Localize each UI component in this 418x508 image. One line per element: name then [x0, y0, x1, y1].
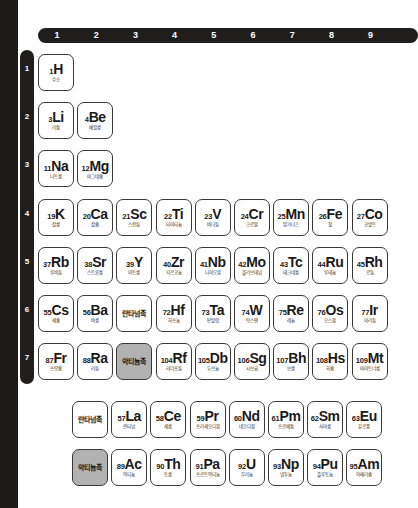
atomic-number: 60: [234, 415, 242, 423]
element-name-korean: 보륨: [287, 367, 295, 372]
element-symbol: Ac: [125, 457, 142, 471]
element-cell-Sc[interactable]: 21Sc스칸듐: [116, 199, 152, 236]
element-cell-Os[interactable]: 76Os오스뮴: [312, 295, 348, 332]
element-cell-Ca[interactable]: 20Ca칼슘: [77, 199, 113, 236]
group-label-cell-란타넘족[interactable]: 란타넘족: [72, 401, 108, 438]
element-cell-Eu[interactable]: 63Eu유로퓸: [346, 401, 382, 438]
element-cell-Np[interactable]: 93Np넵투늄: [268, 449, 304, 486]
element-name-korean: 스칸듐: [129, 223, 141, 228]
element-cell-Y[interactable]: 39Y이트륨: [116, 247, 152, 284]
element-cell-Sr[interactable]: 38Sr스트론튬: [77, 247, 113, 284]
element-cell-Hf[interactable]: 72Hf하프늄: [156, 295, 192, 332]
element-symbol-row: 57La: [117, 409, 141, 423]
element-name-korean: 플루토늄: [317, 473, 333, 478]
element-cell-La[interactable]: 57La란타넘: [111, 401, 147, 438]
element-symbol: Pr: [205, 409, 219, 423]
element-cell-Pr[interactable]: 59Pr프라세오디뮴: [190, 401, 226, 438]
group-label-cell-악티늄족[interactable]: 악티늄족: [116, 343, 152, 380]
element-cell-K[interactable]: 19K칼륨: [38, 199, 74, 236]
element-cell-Mg[interactable]: 12Mg마그네슘: [77, 150, 113, 187]
element-cell-Na[interactable]: 11Na나트륨: [38, 150, 74, 187]
element-cell-Li[interactable]: 3Li리튬: [38, 102, 74, 139]
atomic-number: 75: [279, 309, 287, 317]
element-cell-Zr[interactable]: 40Zr지르코늄: [156, 247, 192, 284]
atomic-number: 74: [242, 309, 250, 317]
element-cell-Mn[interactable]: 25Mn망가니즈: [273, 199, 309, 236]
element-symbol-row: 59Pr: [197, 409, 219, 423]
element-cell-V[interactable]: 23V바나듐: [195, 199, 231, 236]
element-symbol-row: 63Eu: [352, 409, 377, 423]
element-cell-Hs[interactable]: 108Hs하슘: [312, 343, 348, 380]
element-cell-Fe[interactable]: 26Fe철: [312, 199, 348, 236]
element-symbol-row: 77Ir: [361, 303, 378, 317]
element-symbol-row: 40Zr: [163, 255, 184, 269]
element-cell-Pu[interactable]: 94Pu플루토늄: [307, 449, 343, 486]
element-cell-Ta[interactable]: 73Ta탄탈럼: [195, 295, 231, 332]
element-cell-Am[interactable]: 95Am아메리슘: [346, 449, 382, 486]
group-label-cell-란타넘족[interactable]: 란타넘족: [116, 295, 152, 332]
element-cell-Rh[interactable]: 45Rh로듐: [352, 247, 388, 284]
atomic-number: 45: [357, 261, 365, 269]
group-number-7: 7: [273, 28, 311, 43]
element-symbol: Sg: [249, 351, 266, 365]
element-symbol: Mg: [89, 159, 108, 173]
element-cell-Ce[interactable]: 58Ce세륨: [150, 401, 186, 438]
period-number-3: 3: [20, 158, 34, 172]
element-cell-Ti[interactable]: 22Ti타이타늄: [156, 199, 192, 236]
element-cell-Tc[interactable]: 43Tc테크네튬: [273, 247, 309, 284]
element-name-korean: 하슘: [326, 367, 334, 372]
element-cell-U[interactable]: 92U우라늄: [229, 449, 265, 486]
element-symbol: Pu: [321, 457, 338, 471]
element-name-korean: 란타넘: [123, 425, 135, 430]
element-cell-Th[interactable]: 90Th토륨: [150, 449, 186, 486]
element-cell-Bh[interactable]: 107Bh보륨: [273, 343, 309, 380]
element-cell-Pa[interactable]: 91Pa프로트악티늄: [190, 449, 226, 486]
atomic-number: 57: [117, 415, 125, 423]
group-label-cell-악티늄족[interactable]: 악티늄족: [72, 449, 108, 486]
element-symbol-row: 73Ta: [202, 303, 224, 317]
element-cell-H[interactable]: 1H수소: [38, 54, 74, 91]
atomic-number: 59: [197, 415, 205, 423]
element-cell-Be[interactable]: 4Be베릴륨: [77, 102, 113, 139]
element-cell-Db[interactable]: 105Db두브늄: [195, 343, 231, 380]
element-cell-Re[interactable]: 75Re레늄: [273, 295, 309, 332]
element-cell-Ra[interactable]: 88Ra라듐: [77, 343, 113, 380]
element-symbol: Sm: [319, 409, 340, 423]
element-cell-Nb[interactable]: 41Nb나이오븀: [195, 247, 231, 284]
element-cell-Ru[interactable]: 44Ru루테늄: [312, 247, 348, 284]
element-symbol: Ra: [91, 351, 108, 365]
element-cell-Sm[interactable]: 62Sm사마륨: [307, 401, 343, 438]
element-name-korean: 프랑슘: [50, 367, 62, 372]
element-cell-Fr[interactable]: 87Fr프랑슘: [38, 343, 74, 380]
element-cell-Cr[interactable]: 24Cr크로뮴: [234, 199, 270, 236]
element-name-korean: 라듐: [91, 367, 99, 372]
element-cell-Rb[interactable]: 37Rb루비듐: [38, 247, 74, 284]
element-symbol: Np: [281, 457, 299, 471]
element-cell-Rf[interactable]: 104Rf러더포듐: [156, 343, 192, 380]
element-cell-Ir[interactable]: 77Ir이리듐: [352, 295, 388, 332]
atomic-number: 23: [204, 213, 212, 221]
element-cell-Mt[interactable]: 109Mt마이트너륨: [352, 343, 388, 380]
element-cell-Co[interactable]: 27Co코발트: [352, 199, 388, 236]
element-symbol-row: 1H: [49, 62, 63, 76]
element-cell-Ac[interactable]: 89Ac악티늄: [111, 449, 147, 486]
element-symbol-row: 44Ru: [317, 255, 343, 269]
element-cell-Cs[interactable]: 55Cs세슘: [38, 295, 74, 332]
element-symbol: Th: [164, 457, 180, 471]
element-name-korean: 넵투늄: [280, 473, 292, 478]
element-cell-Nd[interactable]: 60Nd네오디뮴: [229, 401, 265, 438]
element-name-korean: 오스뮴: [325, 319, 337, 324]
element-symbol: K: [55, 207, 65, 221]
element-cell-Mo[interactable]: 42Mo몰리브데넘: [234, 247, 270, 284]
atomic-number: 38: [84, 261, 92, 269]
element-cell-Ba[interactable]: 56Ba바륨: [77, 295, 113, 332]
element-symbol: Be: [89, 110, 106, 124]
element-cell-Sg[interactable]: 106Sg시보귬: [234, 343, 270, 380]
element-name-korean: 코발트: [364, 223, 376, 228]
element-cell-W[interactable]: 74W텅스텐: [234, 295, 270, 332]
element-symbol-row: 104Rf: [161, 351, 187, 365]
element-cell-Pm[interactable]: 61Pm프로메튬: [268, 401, 304, 438]
element-name-korean: 악티늄: [123, 473, 135, 478]
atomic-number: 27: [357, 213, 365, 221]
element-name-korean: 몰리브데넘: [242, 271, 262, 276]
